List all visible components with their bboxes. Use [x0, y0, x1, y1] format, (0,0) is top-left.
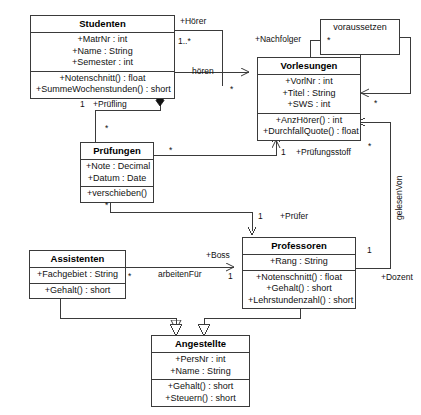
- operations-angestellte: +Gehalt() : short +Steuern() : short: [152, 380, 249, 406]
- label-pruefungsstoff-role: +Prüfungsstoff: [296, 147, 351, 157]
- label-arbeitenfuer-mult-1: *: [128, 271, 131, 281]
- class-vorlesungen[interactable]: Vorlesungen +VorlNr : int +Titel : Strin…: [257, 57, 361, 141]
- class-name-professoren: Professoren: [243, 238, 355, 255]
- attribute: +Fachgebiet : String: [35, 269, 120, 281]
- association-class-name-voraussetzen: voraussetzen: [321, 20, 399, 33]
- label-pruefling-mult: 1: [80, 99, 85, 109]
- operations-professoren: +Notenschnitt() : float +Gehalt() : shor…: [243, 271, 355, 309]
- operation: +Gehalt() : short: [35, 285, 120, 297]
- operations-assistenten: +Gehalt() : short: [30, 284, 125, 299]
- operation: +DurchfallQuote() : float: [263, 126, 355, 138]
- operations-studenten: +Notenschnitt() : float +SummeWochenstun…: [31, 72, 174, 98]
- operation: +SummeWochenstunden() : short: [36, 84, 169, 96]
- label-nachfolger-role: +Nachfolger: [255, 34, 301, 44]
- label-arbeitenfuer-name: arbeitenFür: [158, 269, 201, 279]
- class-pruefungen[interactable]: Prüfungen +Note : Decimal +Datum : Date …: [80, 142, 154, 203]
- attributes-professoren: +Rang : String: [243, 255, 355, 271]
- attributes-studenten: +MatrNr : int +Name : String +Semester :…: [31, 33, 174, 72]
- attribute: +Semester : int: [36, 57, 169, 69]
- class-studenten[interactable]: Studenten +MatrNr : int +Name : String +…: [30, 15, 175, 99]
- operation: +verschieben(): [86, 188, 148, 200]
- operation: +Notenschnitt() : float: [36, 73, 169, 85]
- class-name-assistenten: Assistenten: [30, 251, 125, 268]
- label-vorlesung-mult-1: *: [169, 145, 172, 155]
- operation: +Lehrstundenzahl() : short: [248, 295, 350, 307]
- attribute: +Titel : String: [263, 88, 355, 100]
- attribute: +VorlNr : int: [263, 76, 355, 88]
- operations-pruefungen: +verschieben(): [81, 187, 153, 202]
- class-name-vorlesungen: Vorlesungen: [258, 58, 360, 75]
- attributes-assistenten: +Fachgebiet : String: [30, 268, 125, 284]
- uml-class-diagram: Studenten +MatrNr : int +Name : String +…: [0, 0, 421, 415]
- attribute: +Note : Decimal: [86, 161, 148, 173]
- label-pruefungen-mult-1: *: [105, 123, 108, 133]
- label-arbeitenfuer-mult-2: 1: [228, 271, 233, 281]
- label-dozent-role: +Dozent: [381, 272, 413, 282]
- attribute: +SWS : int: [263, 99, 355, 111]
- label-pruefer-mult: 1: [258, 211, 263, 221]
- label-gelesenvon-mult: 1: [367, 245, 372, 255]
- class-name-studenten: Studenten: [31, 16, 174, 33]
- operation: +Gehalt() : short: [248, 283, 350, 295]
- label-pruefungsstoff-mult: 1: [281, 147, 286, 157]
- attribute: +Datum : Date: [86, 173, 148, 185]
- operation: +AnzHörer() : int: [263, 115, 355, 127]
- label-pruefling-role: +Prüfling: [93, 99, 127, 109]
- label-pruefer-role: +Prüfer: [280, 211, 308, 221]
- class-name-pruefungen: Prüfungen: [81, 143, 153, 160]
- label-vorlesungen-mult-right: *: [368, 141, 371, 151]
- attributes-pruefungen: +Note : Decimal +Datum : Date: [81, 160, 153, 187]
- attribute: +PersNr : int: [157, 354, 244, 366]
- class-professoren[interactable]: Professoren +Rang : String +Notenschnitt…: [242, 237, 356, 309]
- label-hoeren-mult: *: [230, 84, 233, 94]
- association-class-voraussetzen[interactable]: voraussetzen *: [320, 19, 400, 55]
- label-boss-role: +Boss: [206, 250, 230, 260]
- operation: +Gehalt() : short: [157, 381, 244, 393]
- attribute: +MatrNr : int: [36, 34, 169, 46]
- attributes-angestellte: +PersNr : int +Name : String: [152, 353, 249, 380]
- label-gelesenvon-name: gelesenVon: [394, 176, 404, 220]
- attribute: +Rang : String: [248, 256, 350, 268]
- operation: +Notenschnitt() : float: [248, 272, 350, 284]
- class-name-angestellte: Angestellte: [152, 336, 249, 353]
- attribute: +Name : String: [157, 366, 244, 378]
- attribute: +Name : String: [36, 46, 169, 58]
- operation: +Steuern() : short: [157, 393, 244, 405]
- class-assistenten[interactable]: Assistenten +Fachgebiet : String +Gehalt…: [29, 250, 126, 299]
- label-hoeren-name: hören: [192, 66, 214, 76]
- label-voraussetzen-mult: *: [374, 98, 377, 108]
- label-hoerer-mult: 1..*: [178, 36, 191, 46]
- association-class-multiplicity: *: [321, 33, 399, 46]
- attributes-vorlesungen: +VorlNr : int +Titel : String +SWS : int: [258, 75, 360, 114]
- label-pruefungen-mult-2: *: [105, 200, 108, 210]
- class-angestellte[interactable]: Angestellte +PersNr : int +Name : String…: [151, 335, 250, 407]
- label-hoerer-role: +Hörer: [180, 16, 206, 26]
- operations-vorlesungen: +AnzHörer() : int +DurchfallQuote() : fl…: [258, 114, 360, 140]
